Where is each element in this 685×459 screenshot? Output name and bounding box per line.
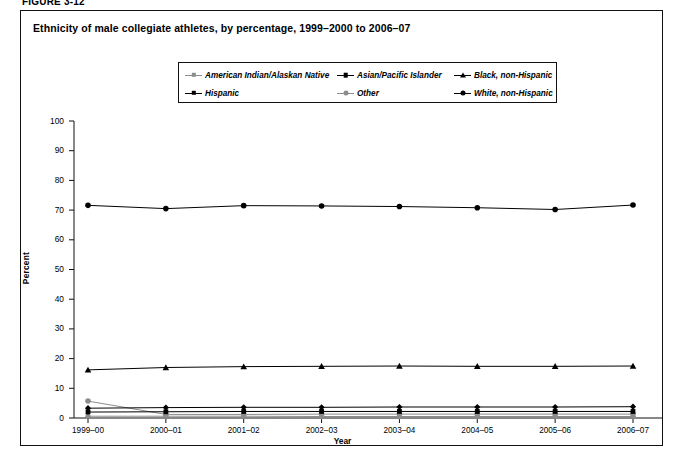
legend-item-white-non-hispanic: White, non-Hispanic (454, 84, 556, 102)
square-marker-icon (337, 70, 354, 80)
legend-label: White, non-Hispanic (474, 89, 553, 98)
legend-item-american-indian-alaskan-native: American Indian/Alaskan Native (185, 66, 337, 84)
y-axis-tick-label: 30 (36, 323, 64, 333)
y-axis-tick-label: 50 (36, 264, 64, 274)
chart-legend: American Indian/Alaskan Native Asian/Pac… (178, 62, 557, 103)
x-axis-tick-label: 2003–04 (364, 426, 434, 435)
legend-item-asian-pacific-islander: Asian/Pacific Islander (337, 66, 454, 84)
y-axis-title: Percent (21, 252, 31, 284)
legend-item-black-non-hispanic: Black, non-Hispanic (454, 66, 556, 84)
legend-label: Asian/Pacific Islander (357, 71, 442, 80)
y-axis-tick-label: 100 (36, 116, 64, 126)
diamond-marker-icon (185, 88, 202, 98)
triangle-marker-icon (454, 70, 471, 80)
legend-label: American Indian/Alaskan Native (205, 71, 329, 80)
x-axis-tick-label: 2000–01 (131, 426, 201, 435)
legend-label: Hispanic (205, 89, 239, 98)
x-axis-tick-label: 2005–06 (520, 426, 590, 435)
circle-marker-icon (337, 88, 354, 98)
circle-marker-icon (454, 88, 471, 98)
legend-grid: American Indian/Alaskan Native Asian/Pac… (179, 63, 556, 102)
y-axis-tick-label: 60 (36, 234, 64, 244)
x-axis-tick-label: 2004–05 (442, 426, 512, 435)
x-axis-tick-label: 1999–00 (53, 426, 123, 435)
diamond-marker-icon (185, 70, 202, 80)
figure-number-label: FIGURE 3-12 (22, 0, 85, 7)
legend-label: Black, non-Hispanic (474, 71, 552, 80)
y-axis-tick-label: 0 (36, 413, 64, 423)
x-axis-title: Year (0, 436, 685, 446)
x-axis-tick-label: 2001–02 (209, 426, 279, 435)
x-axis-tick-label: 2006–07 (598, 426, 668, 435)
y-axis-tick-label: 20 (36, 353, 64, 363)
y-axis-tick-label: 90 (36, 145, 64, 155)
y-axis-tick-label: 70 (36, 205, 64, 215)
y-axis-tick-label: 80 (36, 175, 64, 185)
x-axis-tick-label: 2002–03 (287, 426, 357, 435)
legend-label: Other (357, 89, 379, 98)
chart-title: Ethnicity of male collegiate athletes, b… (33, 22, 410, 34)
legend-item-other: Other (337, 84, 454, 102)
y-axis-tick-label: 10 (36, 383, 64, 393)
legend-item-hispanic: Hispanic (185, 84, 337, 102)
y-axis-tick-label: 40 (36, 294, 64, 304)
